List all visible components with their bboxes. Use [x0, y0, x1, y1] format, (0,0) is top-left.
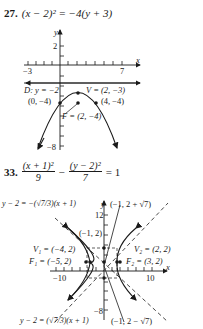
hyperbola-graph	[0, 0, 203, 329]
top-point-label: (−1, 2 + √7)	[110, 199, 151, 209]
bottom-point-label: (−1, 2 − √7)	[111, 316, 152, 326]
f2-label: F₂ = (3, 2)	[126, 256, 163, 266]
y-axis-label: y	[101, 199, 105, 209]
y-tick-bottom: −8	[94, 306, 103, 316]
x-tick-min: −10	[53, 273, 66, 283]
x-axis-label: x	[166, 262, 170, 272]
v2-label: V₂ = (2, 2)	[134, 244, 171, 254]
center-label: (−1, 2)	[79, 228, 102, 238]
asymptote-top-label: y − 2 = −(√7/3)(x + 1)	[2, 199, 76, 208]
f1-label: F₁ = (−5, 2)	[29, 256, 71, 266]
y-tick-top: 12	[95, 210, 104, 220]
asymptote-bottom-label: y − 2 = (√7/3)(x + 1)	[20, 316, 89, 325]
v1-label: V₁ = (−4, 2)	[33, 244, 75, 254]
x-tick-max: 10	[146, 273, 155, 283]
